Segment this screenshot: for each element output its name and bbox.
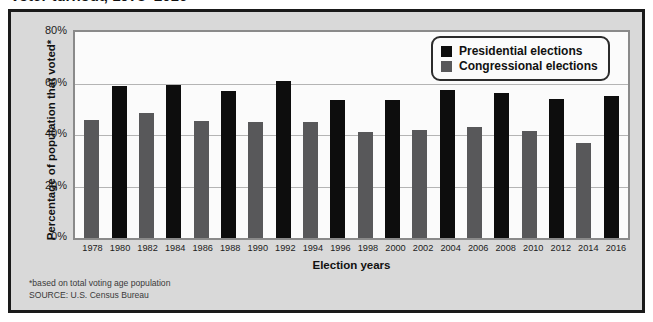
x-tick-label-2002: 2002 <box>413 243 428 253</box>
x-tick-label-2000: 2000 <box>385 243 400 253</box>
x-tick-label-2010: 2010 <box>523 243 538 253</box>
bar-1994 <box>303 122 318 238</box>
bar-1996 <box>330 100 345 238</box>
bar-2012 <box>549 99 564 238</box>
x-tick-label-1986: 1986 <box>192 243 207 253</box>
bar-1988 <box>221 91 236 238</box>
bar-2010 <box>522 131 537 238</box>
bar-2002 <box>412 130 427 238</box>
bar-1986 <box>194 121 209 238</box>
x-tick-label-1984: 1984 <box>165 243 180 253</box>
bar-1982 <box>139 113 154 238</box>
x-tick-label-2016: 2016 <box>606 243 621 253</box>
y-tick-label-40: 40% <box>23 128 67 139</box>
x-tick-label-1996: 1996 <box>330 243 345 253</box>
y-axis-tick-labels: 80%60%40%20%0% <box>19 12 67 310</box>
y-tick-label-60: 60% <box>23 77 67 88</box>
bar-1992 <box>276 81 291 238</box>
voter-turnout-chart-figure: Voter turnout, 1978–2016 Percentage of p… <box>0 0 653 322</box>
x-tick-label-1998: 1998 <box>358 243 373 253</box>
x-tick-label-2006: 2006 <box>468 243 483 253</box>
bar-1980 <box>112 86 127 238</box>
legend-label: Congressional elections <box>459 59 598 73</box>
x-tick-label-1988: 1988 <box>220 243 235 253</box>
bar-1978 <box>84 120 99 238</box>
x-tick-label-1980: 1980 <box>110 243 125 253</box>
x-axis-tick-labels: 1978198019821984198619881990199219941996… <box>73 243 630 257</box>
x-tick-label-1994: 1994 <box>303 243 318 253</box>
footnote-source: SOURCE: U.S. Census Bureau <box>29 289 170 301</box>
y-tick-label-0: 0% <box>23 231 67 242</box>
bar-2008 <box>494 93 509 238</box>
chart-legend: Presidential electionsCongressional elec… <box>431 36 610 81</box>
bar-2016 <box>604 96 619 238</box>
bar-2006 <box>467 127 482 238</box>
bar-2014 <box>576 143 591 238</box>
bar-1984 <box>166 85 181 238</box>
chart-title-cropped: Voter turnout, 1978–2016 <box>0 0 653 9</box>
x-tick-label-1978: 1978 <box>82 243 97 253</box>
bar-1998 <box>358 132 373 238</box>
x-axis-title: Election years <box>73 259 630 271</box>
x-tick-label-1992: 1992 <box>275 243 290 253</box>
gray-square-swatch <box>441 61 452 72</box>
x-tick-label-2008: 2008 <box>495 243 510 253</box>
y-tick-label-20: 20% <box>23 180 67 191</box>
bar-1990 <box>248 122 263 238</box>
bar-2000 <box>385 100 400 238</box>
x-tick-label-2014: 2014 <box>578 243 593 253</box>
chart-footnotes: *based on total voting age populationSOU… <box>29 277 170 301</box>
y-tick-label-80: 80% <box>23 25 67 36</box>
legend-item-presidential[interactable]: Presidential elections <box>441 44 598 58</box>
legend-label: Presidential elections <box>459 44 582 58</box>
chart-panel: Percentage of population that voted* 80%… <box>8 9 645 313</box>
black-square-swatch <box>441 46 452 57</box>
x-tick-label-1982: 1982 <box>137 243 152 253</box>
legend-item-congressional[interactable]: Congressional elections <box>441 59 598 73</box>
x-tick-label-1990: 1990 <box>248 243 263 253</box>
footnote-methodology: *based on total voting age population <box>29 277 170 289</box>
page-title: Voter turnout, 1978–2016 <box>10 0 187 4</box>
bar-2004 <box>440 90 455 238</box>
x-tick-label-2012: 2012 <box>551 243 566 253</box>
x-tick-label-2004: 2004 <box>440 243 455 253</box>
